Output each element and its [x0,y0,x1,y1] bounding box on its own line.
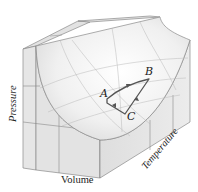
volume-axis-label: Volume [61,174,94,185]
point-c-label: C [127,110,136,123]
point-a-label: A [99,87,108,100]
box-left-face [23,46,36,170]
point-b-label: B [144,65,153,78]
pressure-axis-label: Pressure [7,85,18,123]
pvt-surface-diagram: A B C Pressure Volume Temperature [0,0,198,192]
